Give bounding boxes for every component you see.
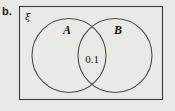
venn-diagram-figure: b. ξ A B 0.1 — [0, 0, 175, 111]
venn-diagram-svg: ξ A B 0.1 — [0, 0, 175, 111]
set-label-a: A — [62, 23, 71, 37]
intersection-value-label: 0.1 — [85, 53, 99, 65]
set-label-b: B — [113, 23, 122, 37]
universal-set-symbol: ξ — [25, 11, 31, 22]
